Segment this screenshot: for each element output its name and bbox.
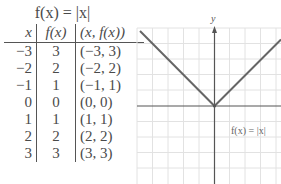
y-axis-label: y xyxy=(211,13,215,24)
graph-plot xyxy=(0,0,281,184)
y-axis-arrow-icon xyxy=(212,26,217,33)
abs-function-line xyxy=(140,31,281,106)
function-label: f(x) = |x| xyxy=(231,125,266,136)
